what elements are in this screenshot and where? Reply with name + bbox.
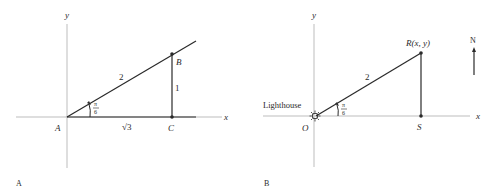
figure-b: y x O R(x, y) S Lighthouse 2 π 6 N B: [263, 10, 480, 188]
b-distance-segment: [316, 53, 421, 116]
b-point-s: [419, 114, 423, 118]
a-hypotenuse: [67, 41, 196, 117]
b-angle-numerator: π: [342, 102, 345, 108]
a-point-b: [170, 52, 174, 56]
a-caption: A: [16, 179, 22, 188]
b-angle-arc-icon: [337, 105, 338, 116]
a-angle-numerator: π: [94, 101, 97, 107]
a-angle-arc-icon: [89, 104, 90, 117]
b-caption: B: [264, 179, 269, 188]
b-origin-label: O: [302, 123, 309, 133]
a-angle-denominator: 6: [94, 109, 97, 115]
north-arrow-icon: [472, 47, 476, 52]
a-base-label: √3: [122, 122, 132, 132]
a-point-b-label: B: [176, 57, 182, 67]
a-point-a-label: A: [54, 123, 61, 133]
a-hypotenuse-label: 2: [119, 72, 124, 82]
diagram-canvas: y x A B C 2 1 √3 π 6 A: [0, 0, 496, 196]
north-label: N: [470, 36, 476, 45]
b-y-label: y: [311, 10, 316, 20]
b-distance-label: 2: [365, 72, 370, 82]
a-vertical-label: 1: [175, 83, 180, 93]
a-point-c: [170, 115, 174, 119]
b-angle-denominator: 6: [342, 110, 345, 116]
b-lighthouse-label: Lighthouse: [263, 100, 301, 110]
a-point-c-label: C: [168, 123, 175, 133]
b-x-label: x: [475, 111, 480, 121]
b-point-r-label: R(x, y): [405, 38, 430, 48]
b-point-s-label: S: [417, 122, 422, 132]
a-y-label: y: [64, 10, 69, 20]
a-x-label: x: [223, 112, 228, 122]
b-point-r: [419, 51, 423, 55]
figure-a: y x A B C 2 1 √3 π 6 A: [16, 10, 228, 188]
